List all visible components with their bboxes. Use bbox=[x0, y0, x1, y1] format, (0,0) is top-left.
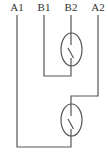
wire-a2 bbox=[71, 15, 98, 104]
reed-switch-2-icon bbox=[61, 104, 82, 136]
wire-b1 bbox=[44, 15, 71, 76]
wiring-svg bbox=[0, 0, 108, 154]
circuit-diagram: A1 B1 B2 A2 bbox=[0, 0, 108, 154]
reed-switch-1-icon bbox=[61, 33, 82, 66]
